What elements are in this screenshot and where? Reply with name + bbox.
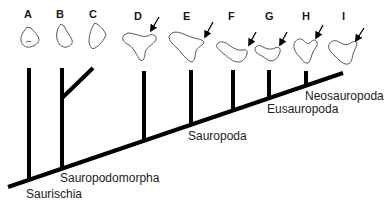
taxon-label-b: B bbox=[56, 8, 64, 20]
arrow-icon-d bbox=[152, 17, 159, 29]
taxon-label-e: E bbox=[183, 10, 190, 22]
arrow-icon-e bbox=[206, 22, 213, 35]
arrow-icon-g bbox=[281, 32, 287, 43]
arrow-icon-f bbox=[250, 32, 256, 43]
specimen-outline-a bbox=[21, 27, 39, 47]
specimen-outline-c bbox=[89, 23, 106, 49]
branch-c bbox=[61, 68, 93, 99]
clade-label-sauropodomorpha: Sauropodomorpha bbox=[60, 171, 160, 185]
specimen-outline-i bbox=[329, 41, 357, 65]
specimen-outline-b bbox=[57, 24, 73, 47]
clade-label-saurischia: Saurischia bbox=[26, 187, 82, 201]
arrow-icon-i bbox=[357, 28, 364, 39]
taxon-label-d: D bbox=[134, 10, 142, 22]
specimen-outline-g bbox=[255, 46, 280, 62]
specimen-outline-h bbox=[294, 39, 317, 63]
clade-label-sauropoda: Sauropoda bbox=[188, 129, 247, 143]
taxon-label-g: G bbox=[265, 10, 274, 22]
taxon-label-f: F bbox=[228, 10, 235, 22]
taxon-label-h: H bbox=[302, 10, 310, 22]
specimen-outline-d bbox=[123, 33, 157, 61]
taxon-label-c: C bbox=[89, 8, 97, 20]
specimen-outline-f bbox=[217, 42, 248, 62]
cladogram-figure: A B C D E F G H I bbox=[0, 0, 385, 206]
clade-label-eusauropoda: Eusauropoda bbox=[267, 102, 339, 116]
specimen-outline-e bbox=[169, 32, 204, 62]
clade-label-neosauropoda: Neosauropoda bbox=[305, 89, 384, 103]
taxon-label-a: A bbox=[24, 8, 32, 20]
cladogram-canvas: A B C D E F G H I bbox=[0, 0, 385, 206]
arrow-icon-h bbox=[317, 25, 323, 36]
main-stem-branch bbox=[8, 73, 343, 187]
taxon-label-i: I bbox=[342, 10, 345, 22]
